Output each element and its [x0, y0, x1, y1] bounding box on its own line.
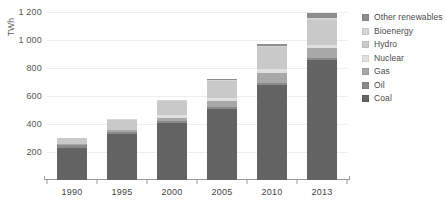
x-axis-tick — [247, 180, 248, 184]
legend-item[interactable]: Other renewables — [362, 12, 446, 23]
y-tick-label: 1 000 — [18, 35, 42, 45]
x-tick-label: 2010 — [262, 187, 283, 197]
x-tick-label: 2013 — [312, 187, 333, 197]
grid-line — [47, 40, 347, 41]
x-axis-tick — [97, 180, 98, 184]
grid-line — [47, 96, 347, 97]
legend-label: Gas — [374, 66, 390, 77]
bar-segment-coal[interactable] — [307, 60, 337, 180]
grid-line — [47, 12, 347, 13]
bar-stack[interactable] — [307, 13, 337, 180]
x-axis-tick — [47, 180, 48, 184]
legend-label: Other renewables — [374, 12, 443, 23]
bar-segment-gas[interactable] — [307, 48, 337, 58]
y-tick-label: 600 — [26, 91, 42, 101]
x-axis-tick — [147, 180, 148, 184]
chart-legend: Other renewablesBioenergyHydroNuclearGas… — [362, 12, 446, 107]
x-tick-label: 2005 — [212, 187, 233, 197]
bar-segment-coal[interactable] — [207, 109, 237, 180]
legend-label: Hydro — [374, 39, 397, 50]
bar-stack[interactable] — [207, 79, 237, 180]
legend-label: Nuclear — [374, 53, 404, 64]
legend-swatch-icon — [362, 41, 369, 48]
legend-item[interactable]: Bioenergy — [362, 26, 446, 37]
bar-stack[interactable] — [107, 119, 137, 180]
x-tick-label: 1995 — [112, 187, 133, 197]
y-axis-title: TWh — [6, 7, 16, 47]
legend-swatch-icon — [362, 14, 369, 21]
x-axis-left-cap — [44, 176, 45, 180]
stacked-bar-chart: TWh 2004006008001 0001 20019901995200020… — [0, 0, 446, 218]
bar-segment-gas[interactable] — [257, 73, 287, 83]
y-tick-label: 400 — [26, 119, 42, 129]
bar-segment-hydro[interactable] — [107, 120, 137, 130]
legend-item[interactable]: Oil — [362, 80, 446, 91]
bar-segment-hydro[interactable] — [157, 101, 187, 116]
grid-line — [47, 124, 347, 125]
legend-item[interactable]: Gas — [362, 66, 446, 77]
legend-item[interactable]: Hydro — [362, 39, 446, 50]
legend-label: Bioenergy — [374, 26, 413, 37]
legend-item[interactable]: Coal — [362, 93, 446, 104]
bar-stack[interactable] — [257, 44, 287, 180]
legend-swatch-icon — [362, 68, 369, 75]
bar-segment-coal[interactable] — [57, 148, 87, 180]
grid-line — [47, 68, 347, 69]
bar-segment-hydro[interactable] — [257, 47, 287, 69]
bar-stack[interactable] — [157, 100, 187, 180]
legend-item[interactable]: Nuclear — [362, 53, 446, 64]
bar-segment-coal[interactable] — [157, 123, 187, 180]
bar-segment-coal[interactable] — [257, 85, 287, 180]
y-tick-label: 1 200 — [18, 7, 42, 17]
bar-stack[interactable] — [57, 138, 87, 180]
x-axis-right-cap — [349, 176, 350, 180]
legend-label: Coal — [374, 93, 392, 104]
legend-swatch-icon — [362, 55, 369, 62]
x-axis-tick — [197, 180, 198, 184]
legend-swatch-icon — [362, 95, 369, 102]
legend-label: Oil — [374, 80, 385, 91]
x-tick-label: 1990 — [62, 187, 83, 197]
legend-swatch-icon — [362, 28, 369, 35]
x-axis-tick — [347, 180, 348, 184]
x-tick-label: 2000 — [162, 187, 183, 197]
bar-segment-coal[interactable] — [107, 134, 137, 180]
legend-swatch-icon — [362, 82, 369, 89]
y-tick-label: 800 — [26, 63, 42, 73]
plot-area: 2004006008001 0001 200199019952000200520… — [47, 12, 347, 180]
grid-line — [47, 152, 347, 153]
x-axis-tick — [297, 180, 298, 184]
bar-segment-hydro[interactable] — [307, 20, 337, 45]
bar-segment-hydro[interactable] — [207, 81, 237, 98]
y-tick-label: 200 — [26, 147, 42, 157]
